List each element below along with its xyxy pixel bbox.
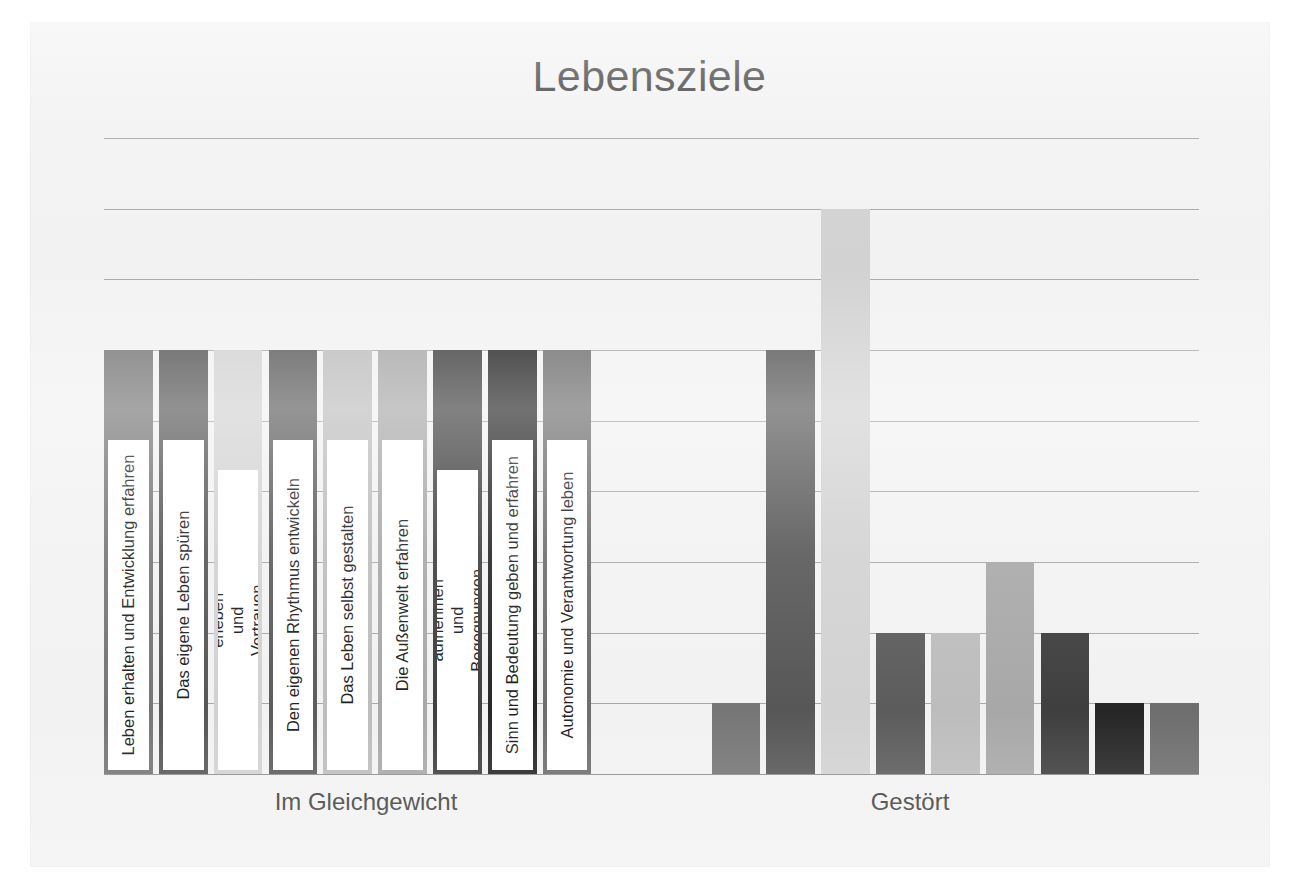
bar-label-text: Beziehungen aufnehmen und Begegnungen ge… [437, 569, 478, 672]
bar: Autonomie und Verantwortung leben [543, 350, 592, 774]
category-label-gestoert: Gestört [760, 788, 1060, 816]
bar-label-plate: Die Außenwelt erfahren [382, 440, 423, 770]
plot-area: Leben erhalten und Entwicklung erfahrenD… [104, 138, 1199, 774]
bar-label-plate: Sicherheit erleben und Vertrauen aufbaue… [218, 470, 259, 770]
bar-label-plate: Autonomie und Verantwortung leben [547, 440, 588, 770]
bar [931, 633, 980, 774]
bar-label-text: Sicherheit erleben und Vertrauen aufbaue… [218, 583, 259, 656]
bar-label-plate: Beziehungen aufnehmen und Begegnungen ge… [437, 470, 478, 770]
bar [712, 703, 761, 774]
bar: Sicherheit erleben und Vertrauen aufbaue… [214, 350, 263, 774]
bar: Das eigene Leben spüren [159, 350, 208, 774]
bar-label-text: Den eigenen Rhythmus entwickeln [283, 478, 303, 732]
bar-label-text: Leben erhalten und Entwicklung erfahren [118, 455, 138, 756]
bar [766, 350, 815, 774]
bar-label-plate: Das eigene Leben spüren [163, 440, 204, 770]
bar-label-text: Autonomie und Verantwortung leben [557, 472, 577, 739]
axis-baseline [104, 774, 1199, 775]
bar [876, 633, 925, 774]
category-label-im-gleichgewicht: Im Gleichgewicht [176, 788, 556, 816]
bar: Leben erhalten und Entwicklung erfahren [104, 350, 153, 774]
chart-figure: Lebensziele Leben erhalten und Entwicklu… [0, 0, 1299, 889]
bar-label-text: Das Leben selbst gestalten [338, 505, 358, 704]
bar: Das Leben selbst gestalten [323, 350, 372, 774]
bar: Die Außenwelt erfahren [378, 350, 427, 774]
bars-layer: Leben erhalten und Entwicklung erfahrenD… [104, 138, 1199, 774]
bar [821, 209, 870, 774]
bar-label-text: Die Außenwelt erfahren [393, 519, 413, 691]
bar [1041, 633, 1090, 774]
bar-label-plate: Sinn und Bedeutung geben und erfahren [492, 440, 533, 770]
bar-label-plate: Leben erhalten und Entwicklung erfahren [108, 440, 149, 770]
bar [986, 562, 1035, 774]
bar [1150, 703, 1199, 774]
bar-label-text: Sinn und Bedeutung geben und erfahren [502, 456, 522, 754]
bar-label-plate: Den eigenen Rhythmus entwickeln [273, 440, 314, 770]
bar [1095, 703, 1144, 774]
chart-title: Lebensziele [0, 52, 1299, 101]
bar-label-text: Das eigene Leben spüren [173, 511, 193, 700]
bar-label-plate: Das Leben selbst gestalten [327, 440, 368, 770]
bar: Sinn und Bedeutung geben und erfahren [488, 350, 537, 774]
bar: Den eigenen Rhythmus entwickeln [269, 350, 318, 774]
bar: Beziehungen aufnehmen und Begegnungen ge… [433, 350, 482, 774]
